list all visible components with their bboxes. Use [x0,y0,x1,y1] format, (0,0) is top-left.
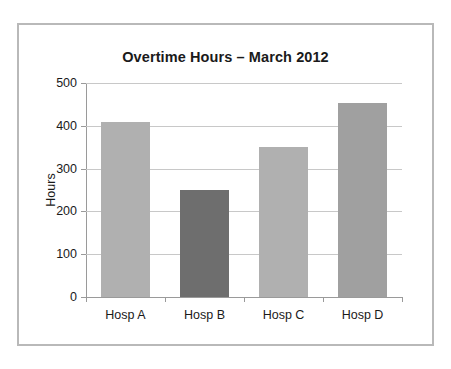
y-axis-tick-label: 100 [56,247,77,261]
plot-area: 0100200300400500 Hours Hosp AHosp BHosp … [86,83,402,297]
chart-frame: Overtime Hours – March 2012 010020030040… [17,23,434,346]
chart-title: Overtime Hours – March 2012 [19,49,432,65]
x-axis-category-label: Hosp C [263,308,305,322]
x-axis-category-labels: Hosp AHosp BHosp CHosp D [86,297,402,325]
bar[interactable] [101,122,149,297]
x-axis-tick-mark [323,297,324,302]
x-axis-tick-mark [244,297,245,302]
x-axis-tick-mark [165,297,166,302]
bar[interactable] [338,103,386,297]
y-axis-tick-label: 200 [56,204,77,218]
y-axis-tick-label: 0 [70,290,77,304]
y-axis-title: Hours [44,173,58,206]
x-axis-category-label: Hosp A [105,308,145,322]
y-axis-tick-label: 500 [56,76,77,90]
bar[interactable] [180,190,228,297]
y-axis-tick-label: 400 [56,119,77,133]
bar[interactable] [259,147,307,297]
x-axis-tick-mark [402,297,403,302]
x-axis-tick-mark [86,297,87,302]
x-axis-category-label: Hosp D [342,308,384,322]
x-axis-category-label: Hosp B [184,308,225,322]
y-axis-tick-label: 300 [56,162,77,176]
bar-series [86,83,402,297]
